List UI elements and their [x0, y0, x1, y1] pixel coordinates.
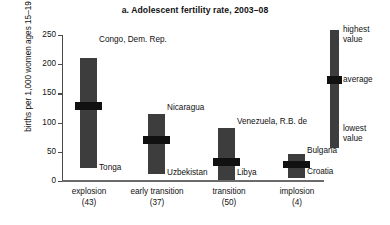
- range-bar-early-transition: [148, 114, 165, 174]
- category-count-implosion: (4): [266, 198, 328, 207]
- point-label-tonga: Tonga: [99, 163, 121, 172]
- range-bar-transition: [218, 128, 235, 180]
- category-name-early-transition: early transition: [117, 187, 197, 196]
- category-name-transition: transition: [198, 187, 260, 196]
- category-name-implosion: implosion: [266, 187, 328, 196]
- category-count-explosion: (43): [58, 198, 120, 207]
- average-marker-transition: [213, 158, 240, 166]
- category-name-explosion: explosion: [58, 187, 120, 196]
- legend-average-marker: [327, 76, 342, 84]
- average-marker-implosion: [283, 161, 310, 169]
- category-label-early-transition: early transition (37): [117, 187, 197, 207]
- legend-highest-line2: value: [343, 35, 369, 45]
- legend-highest-line1: highest: [343, 25, 369, 35]
- point-label-libya: Libya: [237, 168, 257, 177]
- category-count-transition: (50): [198, 198, 260, 207]
- point-label-uzbekistan: Uzbekistan: [167, 168, 208, 177]
- category-label-transition: transition (50): [198, 187, 260, 207]
- category-label-implosion: implosion (4): [266, 187, 328, 207]
- legend-lowest-line1: lowest: [343, 124, 366, 134]
- average-marker-early-transition: [143, 136, 170, 144]
- legend-average-label: average: [343, 75, 373, 85]
- legend-lowest-value: lowest value: [343, 124, 366, 143]
- point-label-venezuela-rb-de: Venezuela, R.B. de: [237, 117, 307, 126]
- point-label-congo-dem-rep: Congo, Dem. Rep.: [99, 35, 167, 44]
- point-label-croatia: Croatia: [307, 167, 333, 176]
- chart-figure: a. Adolescent fertility rate, 2003–08 bi…: [0, 0, 390, 225]
- range-bar-explosion: [80, 58, 97, 168]
- category-count-early-transition: (37): [117, 198, 197, 207]
- legend-lowest-line2: value: [343, 134, 366, 144]
- average-marker-explosion: [75, 102, 102, 110]
- point-label-nicaragua: Nicaragua: [167, 103, 204, 112]
- legend-highest-value: highest value: [343, 25, 369, 44]
- legend-range-bar: [330, 30, 339, 148]
- category-label-explosion: explosion (43): [58, 187, 120, 207]
